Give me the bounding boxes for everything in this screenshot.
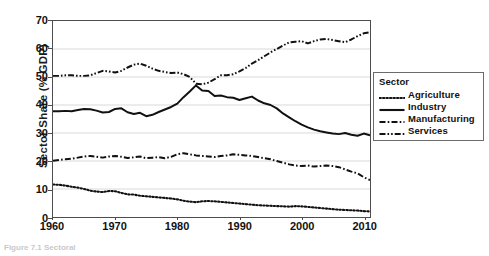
figure-caption: Figure 7.1 Sectoral [4,243,76,252]
x-tick-mark [52,217,53,220]
series-line-industry [53,85,370,135]
legend-item-manufacturing[interactable]: Manufacturing [379,112,479,124]
plot-lines [53,21,370,217]
legend-item-label: Services [408,125,448,136]
series-line-manufacturing [53,153,370,180]
x-tick-label: 1980 [165,220,189,232]
x-tick-mark [302,217,303,220]
legend-entries: AgricultureIndustryManufacturingServices [379,88,479,136]
legend-line-swatch [379,125,405,135]
legend-item-label: Manufacturing [408,113,475,124]
legend-item-label: Industry [408,101,446,112]
x-tick-mark [177,217,178,220]
series-line-services [53,32,370,84]
x-tick-mark [365,217,366,220]
y-tick-label: 60 [2,43,48,54]
y-tick-label: 40 [2,99,48,110]
plot-area [52,20,371,218]
legend-item-services[interactable]: Services [379,124,479,136]
legend-title: Sector [379,76,479,87]
x-tick-label: 2000 [290,220,314,232]
legend: Sector AgricultureIndustryManufacturingS… [373,72,484,141]
y-tick-label: 10 [2,184,48,195]
y-axis-tick-labels: 010203040506070 [0,20,48,218]
x-tick-label: 1990 [227,220,251,232]
legend-item-label: Agriculture [408,89,460,100]
y-tick-label: 30 [2,128,48,139]
x-tick-mark [240,217,241,220]
legend-item-agriculture[interactable]: Agriculture [379,88,479,100]
legend-line-swatch [379,113,405,123]
x-tick-label: 2010 [352,220,376,232]
legend-line-swatch [379,89,405,99]
x-tick-mark [115,217,116,220]
x-axis-tick-labels: 196019701980199020002010 [52,220,371,236]
legend-item-industry[interactable]: Industry [379,100,479,112]
y-tick-label: 50 [2,71,48,82]
y-tick-label: 20 [2,156,48,167]
legend-line-swatch [379,101,405,111]
chart-figure: Sector Share (% GDP) 010203040506070 196… [0,0,489,256]
x-tick-label: 1970 [102,220,126,232]
x-tick-label: 1960 [40,220,64,232]
y-tick-label: 70 [2,15,48,26]
